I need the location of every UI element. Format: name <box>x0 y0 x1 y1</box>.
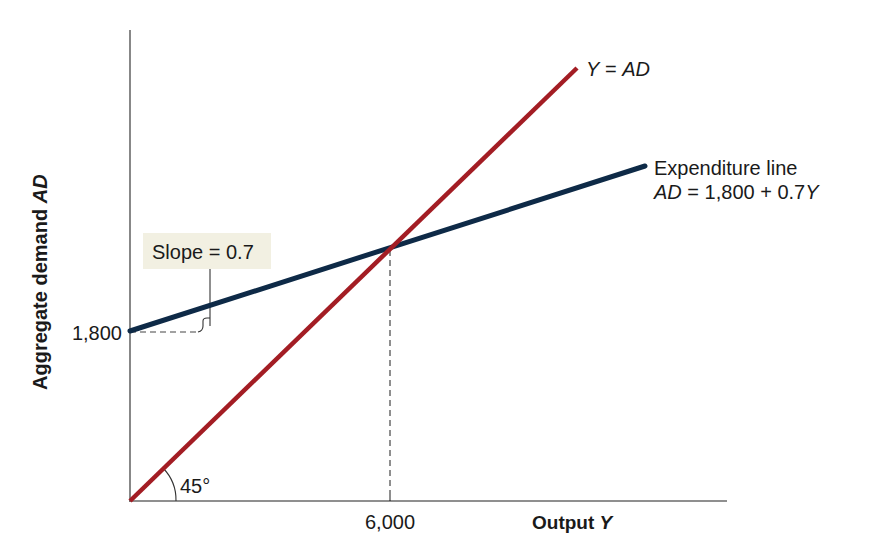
expenditure-line-title: Expenditure line <box>654 157 797 179</box>
y-equals-ad-label: Y = AD <box>586 58 650 80</box>
slope-bracket-icon <box>198 318 210 332</box>
angle-arc-icon <box>163 468 176 501</box>
x-axis-title: Output Y <box>532 512 615 533</box>
expenditure-line-equation: AD = 1,800 + 0.7Y <box>653 181 820 203</box>
slope-label: Slope = 0.7 <box>152 241 254 263</box>
x-tick-label: 6,000 <box>365 511 415 533</box>
keynesian-cross-diagram: Y = AD Expenditure line AD = 1,800 + 0.7… <box>0 0 890 559</box>
y-equals-ad-line <box>130 68 577 501</box>
y-tick-label: 1,800 <box>72 322 122 344</box>
angle-label: 45° <box>180 475 210 497</box>
y-axis-title: Aggregate demand AD <box>29 174 51 390</box>
